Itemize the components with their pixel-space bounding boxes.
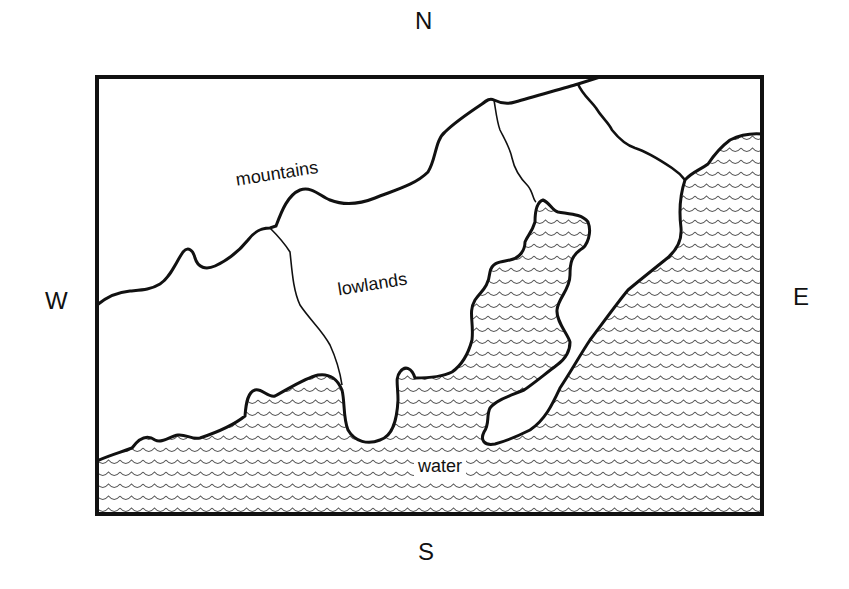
label-mountains: mountains xyxy=(234,157,319,190)
map: mountains lowlands water xyxy=(0,0,849,589)
label-lowlands: lowlands xyxy=(336,269,408,300)
northeast-ridge xyxy=(578,84,685,180)
river-west xyxy=(270,228,342,385)
river-east xyxy=(494,100,536,202)
label-water: water xyxy=(417,456,462,476)
